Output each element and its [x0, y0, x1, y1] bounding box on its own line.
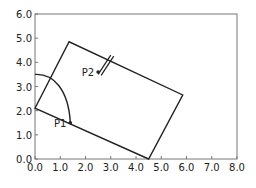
point-marker-icon	[96, 70, 100, 74]
y-tick-label: 0.0	[16, 154, 32, 165]
y-tick-label: 5.0	[16, 33, 32, 44]
x-tick-label: 7.0	[204, 162, 220, 173]
x-tick-label: 3.0	[103, 162, 119, 173]
point-label: P1	[54, 118, 66, 129]
y-tick-label: 4.0	[16, 57, 32, 68]
x-tick-label: 2.0	[78, 162, 94, 173]
y-tick-label: 6.0	[16, 9, 32, 20]
point-marker-icon	[69, 121, 73, 125]
rotated-rectangle	[35, 42, 183, 159]
x-tick-label: 4.0	[128, 162, 144, 173]
point-label: P2	[82, 67, 94, 78]
labeled-points: P1P2	[54, 67, 100, 129]
p2-arrow	[98, 55, 114, 75]
y-tick-label: 1.0	[16, 130, 32, 141]
x-tick-label: 6.0	[179, 162, 195, 173]
point-p2: P2	[82, 67, 100, 78]
x-tick-label: 5.0	[153, 162, 169, 173]
plot-frame	[35, 14, 237, 159]
y-tick-label: 3.0	[16, 82, 32, 93]
x-tick-label: 8.0	[229, 162, 245, 173]
geometry-shapes: P1P2	[35, 42, 183, 159]
x-tick-label: 1.0	[52, 162, 68, 173]
diagram-canvas: 0.01.02.03.04.05.06.07.08.0 0.01.02.03.0…	[0, 0, 256, 188]
y-tick-label: 2.0	[16, 106, 32, 117]
